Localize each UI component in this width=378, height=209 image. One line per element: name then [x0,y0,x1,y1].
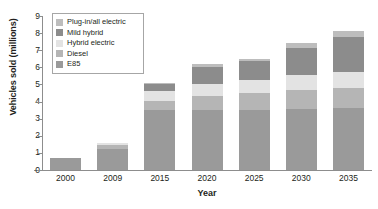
y-tick-label: 4 [0,97,40,106]
legend-label: E85 [67,60,80,68]
legend-swatch-icon [56,50,63,57]
y-tick-label: 2 [0,131,40,140]
bar-segment [333,72,364,88]
x-tick-label: 2035 [318,174,378,183]
bar-segment [333,88,364,109]
chart-container: Vehicles sold (millions) 0123456789 2000… [0,0,378,209]
bar-segment [192,96,223,111]
bar-segment [333,108,364,170]
bar-segment [144,84,175,91]
y-tick-label: 6 [0,63,40,72]
legend-swatch-icon [56,40,63,47]
y-tick-label: 0 [0,166,40,175]
bar-segment [239,61,270,81]
bar-stack [50,158,81,170]
bar-segment [144,91,175,100]
legend-item: Plug-in/all electric [56,17,139,28]
bar-stack [286,43,317,170]
legend-item: Hybrid electric [56,38,139,49]
y-tick-label: 9 [0,12,40,21]
legend-item: Diesel [56,49,139,60]
x-axis-line [34,170,372,171]
legend-swatch-icon [56,19,63,26]
bar-segment [50,158,81,170]
legend-item: E85 [56,59,139,70]
bar-segment [144,110,175,170]
bar-stack [192,64,223,170]
bar-segment [144,101,175,110]
legend-item: Mild hybrid [56,28,139,39]
bar-segment [286,48,317,75]
x-axis-title: Year [42,188,372,198]
bar-stack [97,143,128,170]
legend-swatch-icon [56,61,63,68]
y-tick-label: 7 [0,46,40,55]
y-tick-mark [38,170,42,171]
y-tick-label: 8 [0,29,40,38]
chart-legend: Plug-in/all electricMild hybridHybrid el… [52,13,144,74]
bar-segment [97,149,128,170]
bar-segment [286,75,317,90]
y-tick-label: 1 [0,148,40,157]
bar-segment [192,110,223,170]
bar-segment [286,109,317,170]
legend-swatch-icon [56,29,63,36]
bar-segment [239,93,270,110]
y-tick-label: 3 [0,114,40,123]
bar-stack [333,31,364,170]
bar-segment [286,90,317,109]
bar-stack [144,83,175,170]
bar-segment [239,110,270,170]
bar-stack [239,59,270,170]
bar-segment [333,37,364,71]
legend-label: Hybrid electric [67,39,115,47]
bar-segment [192,67,223,84]
bar-segment [192,84,223,96]
legend-label: Diesel [67,50,88,58]
legend-label: Mild hybrid [67,29,103,37]
legend-label: Plug-in/all electric [67,18,126,26]
bar-segment [239,80,270,93]
y-tick-label: 5 [0,80,40,89]
